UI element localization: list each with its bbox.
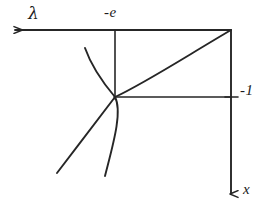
figure-canvas: λ -e -1 x [0, 0, 268, 212]
x-axis-label: x [243, 182, 250, 197]
diagram-svg [0, 0, 268, 212]
arc-lower-left-branch [57, 97, 115, 173]
arc-upper-left-branch [85, 48, 118, 176]
lambda-axis-label: λ [28, 5, 39, 22]
rising-curve [115, 30, 231, 97]
tick-label-minus-e: -e [104, 5, 117, 20]
tick-label-minus-one: -1 [240, 83, 254, 98]
